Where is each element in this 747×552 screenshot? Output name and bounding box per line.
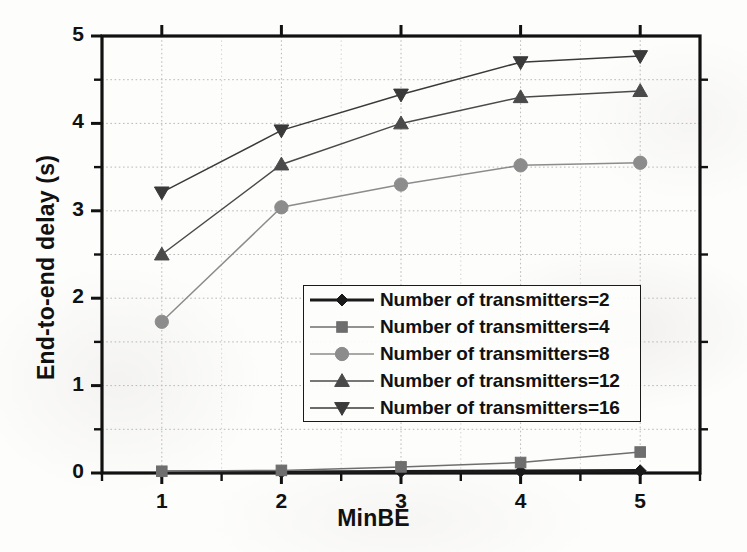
data-point-diamond [634,465,646,477]
chart-figure: 012345 12345 End-to-end delay (s) MinBE … [0,0,747,552]
data-point-circle [514,159,527,172]
legend-marker-diamond-icon [304,286,380,313]
legend-label: Number of transmitters=2 [380,289,609,311]
data-point-circle [634,156,647,169]
x-axis-title: MinBE [0,505,747,532]
data-point-circle [155,315,168,328]
data-point-diamond [336,294,348,306]
data-point-circle [275,201,288,214]
data-point-triangle-up [633,84,648,97]
legend-marker-square-icon [304,313,380,340]
legend-label: Number of transmitters=16 [380,397,620,419]
legend-label: Number of transmitters=4 [380,316,609,338]
data-point-square [276,465,287,476]
chart-legend: Number of transmitters=2Number of transm… [303,285,641,422]
data-point-triangle-down [154,187,169,200]
legend-item[interactable]: Number of transmitters=12 [304,367,640,394]
legend-item[interactable]: Number of transmitters=8 [304,340,640,367]
legend-marker-triangle-down-icon [304,394,380,421]
data-point-square [635,447,646,458]
data-point-square [515,457,526,468]
legend-marker-circle-icon [304,340,380,367]
legend-item[interactable]: Number of transmitters=4 [304,313,640,340]
y-tick-label-4: 4 [44,109,84,133]
y-axis-title: End-to-end delay (s) [33,138,60,398]
legend-item[interactable]: Number of transmitters=2 [304,286,640,313]
plot-canvas [0,0,747,552]
y-tick-label-0: 0 [44,459,84,483]
data-point-triangle-up [335,374,350,387]
legend-label: Number of transmitters=12 [380,370,620,392]
data-point-square [396,462,407,473]
legend-item[interactable]: Number of transmitters=16 [304,394,640,421]
y-tick-label-5: 5 [44,22,84,46]
data-point-triangle-down [274,125,289,138]
data-point-triangle-up [274,157,289,170]
legend-marker-triangle-up-icon [304,367,380,394]
legend-label: Number of transmitters=8 [380,343,609,365]
data-point-circle [335,347,348,360]
data-point-square [157,466,168,477]
data-point-triangle-up [154,247,169,260]
data-point-circle [394,178,407,191]
data-point-triangle-down [335,403,350,416]
data-point-square [337,322,348,333]
